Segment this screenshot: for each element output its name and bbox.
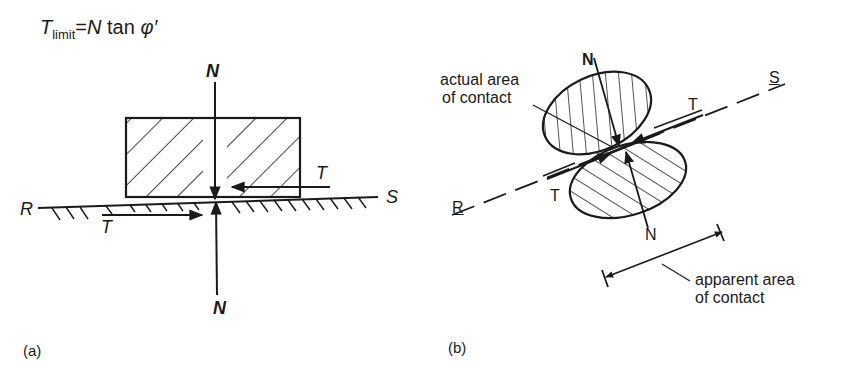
panel-a-label-T-upper: T bbox=[316, 164, 327, 182]
panel-a-label-R: R bbox=[20, 200, 33, 218]
panel-b-label-T-upper: T bbox=[688, 97, 698, 113]
apparent-area-annotation: apparent area of contact bbox=[695, 271, 795, 308]
actual-area-annotation: actual area of contact bbox=[440, 71, 519, 108]
panel-b-label-T-lower: T bbox=[550, 188, 560, 204]
apparent-area-line1: apparent area bbox=[695, 271, 795, 289]
ground-surface bbox=[38, 197, 378, 220]
panel-b-label-N-bottom: N bbox=[645, 227, 657, 243]
diagram-graphics bbox=[0, 0, 841, 384]
panel-b-label-S: S bbox=[769, 70, 780, 86]
actual-area-line1: actual area bbox=[440, 71, 519, 89]
panel-a-label-N-top: N bbox=[206, 62, 219, 80]
panel-a-label-T-lower: T bbox=[101, 218, 112, 236]
normal-force-up-arrow bbox=[216, 202, 217, 295]
panel-b-caption: (b) bbox=[448, 340, 466, 355]
block bbox=[126, 118, 300, 197]
actual-area-line2: of contact bbox=[440, 89, 519, 107]
panel-b-label-R: R bbox=[452, 200, 464, 216]
panel-a-label-N-bottom: N bbox=[213, 299, 226, 317]
apparent-area-line2: of contact bbox=[695, 289, 795, 307]
panel-a-graphics bbox=[38, 82, 378, 295]
panel-a-label-S: S bbox=[386, 188, 398, 206]
friction-diagram: Tlimit=N tan φ′ bbox=[0, 0, 841, 384]
panel-b-label-N-top: N bbox=[582, 52, 594, 68]
panel-a-caption: (a) bbox=[23, 343, 41, 358]
